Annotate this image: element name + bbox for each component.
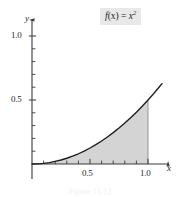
figure-container: 1.0 0.5 0.5 1.0 y x f(x) = x2 Figure 11.… — [0, 0, 180, 197]
y-tick-label-0.5: 0.5 — [11, 94, 22, 104]
x-tick-label-1.0: 1.0 — [140, 168, 151, 178]
function-label: f(x) = x2 — [100, 8, 141, 25]
y-tick-label-1.0: 1.0 — [11, 30, 22, 40]
x-tick-label-0.5: 0.5 — [82, 168, 93, 178]
function-label-equals: = — [119, 11, 129, 21]
figure-caption: Figure 11.12 — [0, 186, 180, 196]
function-label-exponent: 2 — [133, 9, 136, 16]
function-label-argument: (x) — [108, 11, 119, 21]
x-axis-label: x — [167, 163, 171, 173]
y-axis-label: y — [25, 13, 29, 23]
shaded-area-under-curve — [32, 100, 148, 164]
